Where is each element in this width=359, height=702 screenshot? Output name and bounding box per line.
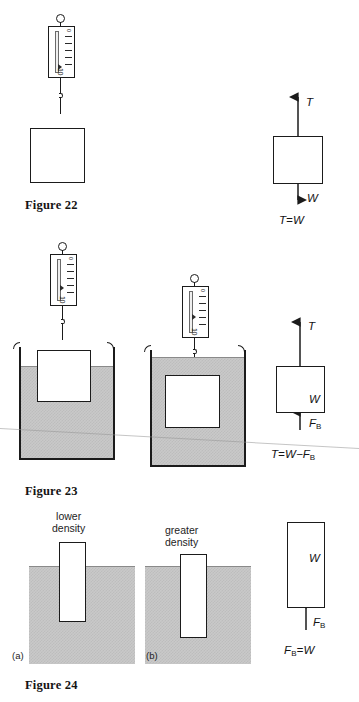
weight-label-figure-24: W (309, 552, 320, 564)
equation-subscript: B (310, 453, 315, 462)
scale-zero-label: 0 (68, 257, 74, 260)
floating-block-lower-density (59, 542, 86, 622)
tension-label-figure-22: T (306, 96, 313, 108)
spring-scale-figure-22: 0 10 (44, 14, 84, 84)
scale-zero-label: 0 (66, 29, 72, 32)
scale-string-lower (60, 98, 61, 114)
weight-label-figure-22: W (307, 192, 318, 204)
beaker-wall-right (244, 350, 246, 467)
scale-tick (67, 264, 74, 265)
figure-24-caption: Figure 24 (25, 678, 78, 693)
scale-tick (199, 317, 206, 318)
beaker-wall-right (113, 347, 115, 460)
equation-figure-24: FB=W (284, 644, 314, 658)
buoyant-force-label-figure-23: FB (309, 417, 321, 431)
scale-ten-label: 10 (57, 68, 64, 75)
scale-pointer (192, 314, 196, 320)
scale-tick (65, 64, 72, 65)
scale-string-lower (62, 324, 63, 340)
figure-22-group: 0 10 Figure 22 (0, 0, 355, 228)
scale-ten-label: 10 (59, 296, 66, 303)
panel-tag-a: (a) (12, 650, 24, 661)
panel-tag-b: (b) (146, 650, 158, 661)
equation-main: T=W−F (271, 448, 310, 460)
equation-rhs: =W (297, 644, 315, 656)
scale-indicator-bar (57, 259, 61, 301)
scale-pointer (60, 285, 64, 291)
scale-tick (67, 292, 74, 293)
spring-scale-figure-23-b: 0 10 (178, 274, 218, 344)
scale-tick (199, 324, 206, 325)
scale-zero-label: 0 (200, 289, 206, 292)
buoyant-force-subscript: B (320, 621, 325, 630)
submerged-block-figure-23-a (37, 350, 91, 402)
scale-tick (65, 50, 72, 51)
greater-density-label: greater density (165, 524, 198, 548)
scale-tick (67, 285, 74, 286)
scale-string-upper (62, 306, 63, 320)
scale-tick (65, 57, 72, 58)
fluid-surface-line (152, 357, 244, 358)
floating-block-greater-density (180, 554, 207, 638)
figure-22-free-body-diagram: T W T=W (262, 92, 352, 222)
buoyant-force-subscript: B (316, 422, 321, 431)
scale-ten-label: 10 (191, 328, 198, 335)
weight-label-figure-23: W (309, 393, 320, 405)
buoyant-force-label-figure-24: FB (313, 616, 325, 630)
greater-density-line-1: greater (165, 524, 198, 536)
beaker-floor (150, 465, 246, 467)
scale-string-upper (60, 78, 61, 94)
scale-tick (67, 278, 74, 279)
scale-tick (199, 303, 206, 304)
scale-body: 0 10 (50, 254, 77, 306)
beaker-floor (19, 458, 115, 460)
buoyant-force-symbol: F (313, 616, 320, 628)
equation-figure-22: T=W (279, 214, 304, 226)
scale-tick (199, 296, 206, 297)
figure-24-panel-a: lower density (a) (0, 500, 130, 690)
fbd-block-figure-22 (273, 136, 323, 184)
spring-scale-figure-23-a: 0 10 (46, 242, 86, 312)
lower-density-line-2: density (52, 522, 85, 534)
scale-tick (67, 271, 74, 272)
hanging-block-figure-22 (30, 128, 85, 183)
scale-indicator-bar (189, 291, 193, 333)
scale-body: 0 10 (48, 26, 75, 78)
tension-label-figure-23: T (308, 320, 315, 332)
fbd-block-figure-24 (287, 522, 325, 608)
buoyant-force-symbol: F (309, 417, 316, 429)
lower-density-label: lower density (52, 510, 85, 534)
scale-tick (199, 310, 206, 311)
figure-23-group: 0 10 (0, 232, 355, 492)
equation-figure-23: T=W−FB (271, 448, 315, 462)
figure-24-group: lower density (a) greater density (b) Fi… (0, 500, 355, 702)
figure-23-caption: Figure 23 (25, 484, 78, 499)
scale-tick (65, 36, 72, 37)
lower-density-line-1: lower (52, 510, 85, 522)
scale-body: 0 10 (182, 286, 209, 338)
fbd-block-figure-23 (276, 366, 325, 413)
figure-24-panel-b: greater density (b) (130, 500, 270, 690)
greater-density-line-2: density (165, 536, 198, 548)
submerged-block-figure-23-b (165, 375, 220, 428)
scale-tick (65, 43, 72, 44)
figure-22-caption: Figure 22 (25, 198, 78, 213)
figure-24-free-body-diagram: W FB FB=W (282, 520, 354, 670)
